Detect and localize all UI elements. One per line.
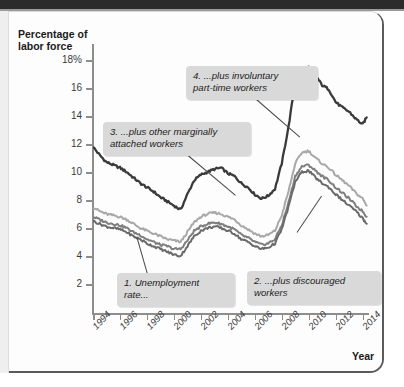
- y-tick-label-6: 6: [42, 222, 82, 233]
- x-axis-title: Year: [352, 350, 374, 362]
- callout-1: 1. Unemployment rate...: [117, 273, 235, 307]
- y-axis-title-line1: Percentage of: [18, 28, 118, 40]
- callout-2-line2: workers: [254, 287, 374, 299]
- y-tick-label-8: 8: [42, 194, 82, 205]
- callout-3: 3. ...plus other marginally attached wor…: [103, 122, 251, 156]
- y-tick-label-18: 18%: [42, 54, 82, 65]
- page-top-band: [0, 0, 404, 9]
- callout-1-line2: rate...: [124, 289, 228, 301]
- y-tick-label-4: 4: [42, 250, 82, 261]
- series-line-1: [93, 170, 367, 257]
- callout-4: 4. ...plus involuntary part-time workers: [186, 66, 318, 100]
- y-tick-10: [86, 172, 93, 174]
- y-tick-8: [86, 200, 93, 202]
- y-tick-label-2: 2: [42, 278, 82, 289]
- y-tick-label-16: 16: [42, 82, 82, 93]
- y-tick-18: [86, 60, 93, 62]
- callout-3-line2: attached workers: [110, 138, 244, 150]
- y-tick-4: [86, 256, 93, 258]
- y-tick-12: [86, 144, 93, 146]
- page-left-gutter: [0, 11, 9, 373]
- callout-4-line2: part-time workers: [193, 82, 311, 94]
- y-tick-16: [86, 88, 93, 90]
- y-tick-14: [86, 116, 93, 118]
- callout-3-line1: 3. ...plus other marginally: [110, 126, 244, 138]
- y-tick-label-12: 12: [42, 138, 82, 149]
- callout-1-line1: 1. Unemployment: [124, 277, 228, 289]
- callout-2: 2. ...plus discouraged workers: [247, 271, 381, 305]
- y-tick-label-10: 10: [42, 166, 82, 177]
- callout-2-line1: 2. ...plus discouraged: [254, 275, 374, 287]
- callout-4-line1: 4. ...plus involuntary: [193, 70, 311, 82]
- y-tick-label-14: 14: [42, 110, 82, 121]
- y-tick-6: [86, 228, 93, 230]
- y-tick-2: [86, 284, 93, 286]
- chart-figure: Percentage of labor force Year 246810121…: [0, 0, 404, 387]
